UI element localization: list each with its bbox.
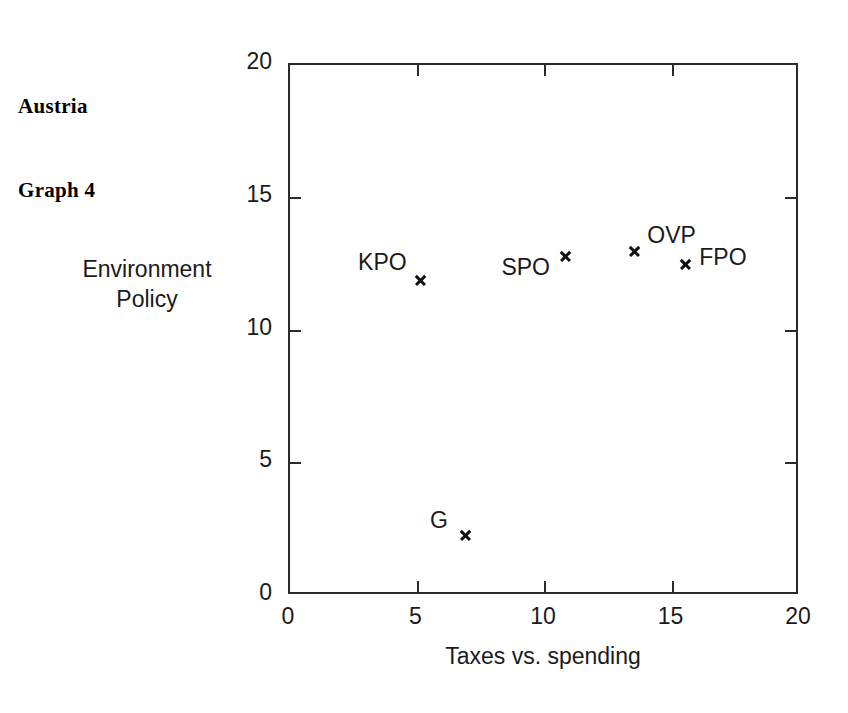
caption-graph-number: Graph 4 <box>18 177 95 205</box>
x-axis-tick-label: 10 <box>513 603 573 630</box>
y-axis-tick-label: 0 <box>212 579 272 606</box>
y-axis-tick-label: 10 <box>212 314 272 341</box>
x-axis-tick-bottom <box>544 581 546 592</box>
y-axis-tick-right <box>785 330 796 332</box>
x-axis-tick-top <box>417 65 419 76</box>
data-point-marker <box>558 249 572 263</box>
chart-page: Austria Graph 4 Environment Policy Taxes… <box>0 0 848 713</box>
y-axis-tick-label: 20 <box>212 48 272 75</box>
x-axis-tick-bottom <box>672 581 674 592</box>
y-axis-tick-right <box>785 197 796 199</box>
data-point-marker <box>678 257 692 271</box>
data-point-label: FPO <box>699 244 746 271</box>
x-axis-tick-label: 5 <box>386 603 446 630</box>
y-axis-tick-left <box>290 462 301 464</box>
y-axis-tick-left <box>290 330 301 332</box>
y-axis-tick-right <box>785 462 796 464</box>
chart-caption: Austria Graph 4 <box>18 38 95 260</box>
data-point-marker <box>459 528 473 542</box>
data-point-marker <box>627 244 641 258</box>
data-point-label: G <box>430 507 448 534</box>
x-axis-tick-top <box>672 65 674 76</box>
y-axis-title-line-1: Environment <box>62 255 232 285</box>
y-axis-title: Environment Policy <box>62 255 232 315</box>
x-axis-tick-top <box>544 65 546 76</box>
y-axis-tick-left <box>290 197 301 199</box>
data-point-label: OVP <box>647 222 696 249</box>
data-point-label: SPO <box>501 254 550 281</box>
x-axis-title: Taxes vs. spending <box>288 643 798 670</box>
x-axis-tick-label: 20 <box>768 603 828 630</box>
data-point-label: KPO <box>358 249 407 276</box>
x-axis-tick-label: 0 <box>258 603 318 630</box>
caption-country: Austria <box>18 93 95 121</box>
y-axis-tick-label: 5 <box>212 446 272 473</box>
x-axis-tick-bottom <box>417 581 419 592</box>
y-axis-title-line-2: Policy <box>62 285 232 315</box>
y-axis-tick-label: 15 <box>212 181 272 208</box>
plot-area: KPOGSPOOVPFPO <box>288 63 798 594</box>
data-point-marker <box>413 273 427 287</box>
x-axis-tick-label: 15 <box>641 603 701 630</box>
